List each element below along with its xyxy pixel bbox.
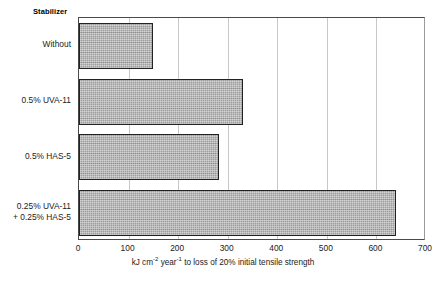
bar-row [79, 79, 426, 125]
category-label-line1: 0.25% UVA-11 [13, 201, 71, 212]
x-tick-label-600: 600 [355, 243, 395, 253]
bar-row [79, 190, 426, 236]
category-label-has5: 0.5% HAS-5 [25, 151, 71, 162]
x-tick-label-100: 100 [108, 243, 148, 253]
category-label-without: Without [43, 39, 71, 50]
bar-row [79, 23, 426, 69]
bar-row [79, 134, 426, 180]
x-tick-label-500: 500 [306, 243, 346, 253]
x-tick-label-0: 0 [58, 243, 98, 253]
category-label-line2: + 0.25% HAS-5 [13, 212, 71, 223]
bar-1[interactable] [79, 79, 243, 125]
category-label-line1: 0.5% HAS-5 [25, 151, 71, 162]
category-label-line1: 0.5% UVA-11 [22, 95, 72, 106]
bar-3[interactable] [79, 190, 396, 236]
legend-title-stabilizer: Stabilizer [33, 7, 67, 16]
x-tick-label-700: 700 [405, 243, 445, 253]
x-tick-label-400: 400 [256, 243, 296, 253]
x-axis-title-part-c: to loss of 20% initial tensile strength [182, 258, 314, 267]
bar-2[interactable] [79, 134, 219, 180]
category-label-line1: Without [43, 39, 71, 50]
bar-chart: Stabilizer Without 0.5% UVA-11 0.5% HAS-… [0, 0, 446, 283]
bar-0[interactable] [79, 23, 153, 69]
category-label-uva11: 0.5% UVA-11 [22, 95, 72, 106]
plot-area [78, 17, 425, 240]
x-tick-label-200: 200 [157, 243, 197, 253]
x-axis-title-part-b: year [158, 258, 176, 267]
x-axis-title: kJ cm-2 year-1 to loss of 20% initial te… [0, 258, 446, 267]
x-tick-label-300: 300 [207, 243, 247, 253]
x-axis-title-part-a: kJ cm [132, 258, 153, 267]
category-label-uva11-has5: 0.25% UVA-11 + 0.25% HAS-5 [13, 201, 71, 223]
